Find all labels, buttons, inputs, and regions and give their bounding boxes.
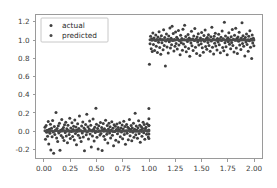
data-point xyxy=(128,118,131,121)
legend-label-predicted: predicted xyxy=(62,31,97,40)
data-point xyxy=(162,48,165,51)
data-point xyxy=(235,46,238,49)
data-point xyxy=(55,136,58,139)
data-point xyxy=(102,135,105,138)
y-tick-label: 0.4 xyxy=(18,90,30,99)
data-point xyxy=(153,49,156,52)
data-point xyxy=(241,21,244,24)
data-point xyxy=(147,124,150,127)
data-point xyxy=(160,41,163,44)
data-point xyxy=(225,45,228,48)
data-point xyxy=(160,34,163,37)
data-point xyxy=(222,49,225,52)
data-point xyxy=(139,141,142,144)
data-point xyxy=(159,53,162,56)
data-point xyxy=(150,47,153,50)
data-point xyxy=(85,113,88,116)
data-point xyxy=(182,43,185,46)
data-point xyxy=(119,135,122,138)
data-point xyxy=(114,139,117,142)
data-point xyxy=(221,46,224,49)
data-point xyxy=(249,46,252,49)
data-point xyxy=(80,124,83,127)
x-tick-label: 0.00 xyxy=(36,164,52,173)
data-point xyxy=(117,140,120,143)
legend-marker-predicted xyxy=(50,34,53,37)
data-point xyxy=(147,107,150,110)
data-point xyxy=(246,43,249,46)
data-point xyxy=(196,36,199,39)
data-point xyxy=(171,25,174,28)
data-point xyxy=(53,133,56,136)
data-point xyxy=(177,29,180,32)
y-tick-label: -0.2 xyxy=(15,145,29,154)
data-point xyxy=(56,140,59,143)
data-point xyxy=(124,143,127,146)
data-point xyxy=(78,136,81,139)
data-point xyxy=(60,118,63,121)
data-point xyxy=(202,34,205,37)
data-point xyxy=(218,43,221,46)
data-point xyxy=(49,123,52,126)
x-tick-label: 1.75 xyxy=(220,164,236,173)
data-point xyxy=(93,126,96,129)
data-point xyxy=(190,44,193,47)
data-point xyxy=(158,30,161,33)
data-point xyxy=(97,148,100,151)
x-tick-label: 2.00 xyxy=(246,164,262,173)
data-point xyxy=(193,27,196,30)
data-point xyxy=(143,138,146,141)
data-point xyxy=(173,45,176,48)
data-point xyxy=(87,137,90,140)
data-point xyxy=(209,35,212,38)
data-point xyxy=(121,137,124,140)
data-point xyxy=(51,119,54,122)
data-point xyxy=(93,140,96,143)
data-point xyxy=(230,35,233,38)
data-point xyxy=(65,134,68,137)
data-point xyxy=(101,149,104,152)
data-point xyxy=(241,42,244,45)
data-point xyxy=(200,42,203,45)
data-point xyxy=(132,122,135,125)
legend: actualpredicted xyxy=(41,18,108,42)
data-point xyxy=(130,139,133,142)
data-point xyxy=(204,29,207,32)
data-point xyxy=(64,121,67,124)
data-point xyxy=(49,148,52,151)
data-point xyxy=(123,133,126,136)
data-point xyxy=(47,120,50,123)
data-point xyxy=(84,123,87,126)
data-point xyxy=(214,32,217,35)
data-point xyxy=(229,47,232,50)
data-point xyxy=(83,149,86,152)
data-point xyxy=(121,123,124,126)
matplotlib-figure: 0.000.250.500.751.001.251.501.752.00-0.2… xyxy=(0,0,277,188)
data-point xyxy=(90,146,93,149)
data-point xyxy=(221,30,224,33)
data-point xyxy=(213,42,216,45)
data-point xyxy=(187,33,190,36)
data-point xyxy=(250,57,253,60)
data-point xyxy=(231,44,234,47)
data-point xyxy=(115,122,118,125)
data-point xyxy=(127,138,130,141)
data-point xyxy=(58,149,61,152)
data-point xyxy=(167,35,170,38)
legend-marker-actual xyxy=(50,24,53,27)
data-point xyxy=(62,126,65,129)
data-point xyxy=(149,42,152,45)
data-point xyxy=(155,45,158,48)
y-tick-label: 0.8 xyxy=(18,54,30,63)
data-point xyxy=(217,33,220,36)
data-point xyxy=(81,120,84,123)
data-point xyxy=(226,53,229,56)
data-point xyxy=(234,27,237,30)
data-point xyxy=(103,138,106,141)
data-point xyxy=(76,122,79,125)
data-point xyxy=(200,31,203,34)
data-point xyxy=(166,45,169,48)
data-point xyxy=(89,124,92,127)
data-point xyxy=(247,50,250,53)
data-point xyxy=(190,30,193,33)
